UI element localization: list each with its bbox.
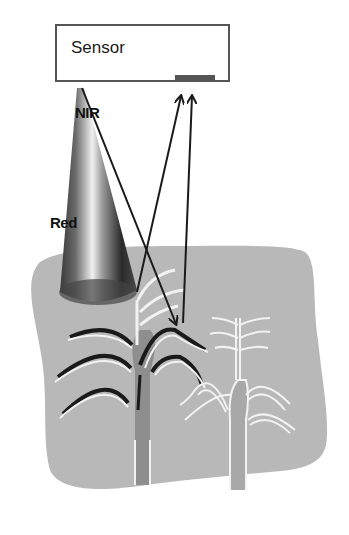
sensor-box: Sensor [55,24,230,82]
red-label: Red [50,214,77,231]
sensor-label: Sensor [71,38,125,58]
remote-sensing-diagram: Sensor NIR Red [0,0,349,535]
nir-label: NIR [75,104,99,121]
sensor-detector [175,75,215,80]
